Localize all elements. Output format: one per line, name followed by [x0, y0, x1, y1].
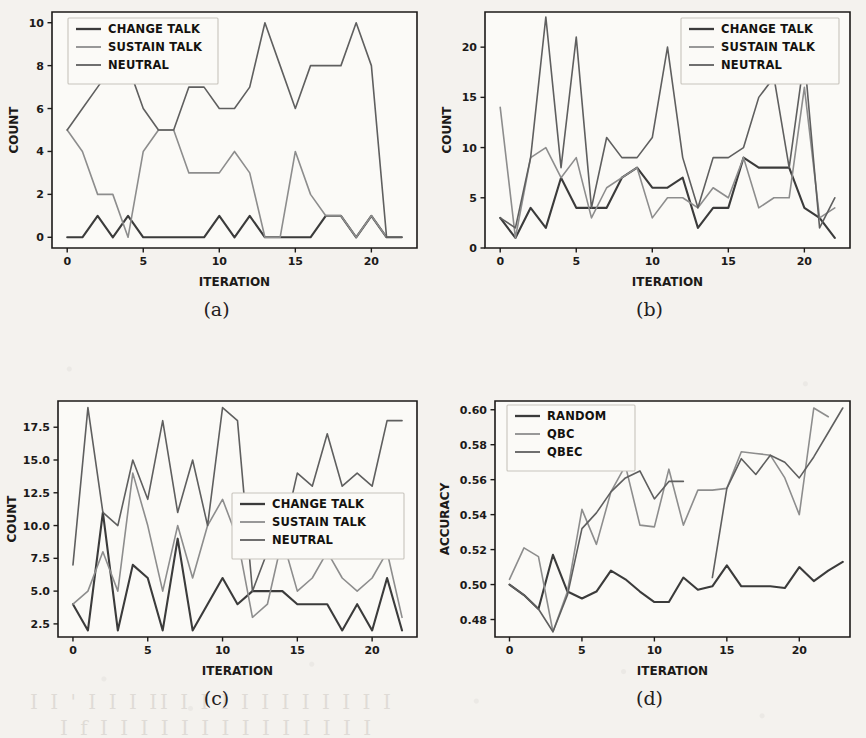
y-tick-label: 20: [462, 41, 478, 54]
x-tick-label: 15: [290, 644, 305, 657]
y-tick-label: 0.54: [460, 509, 487, 522]
panel-d-plot: 051015200.480.500.520.540.560.580.60ITER…: [433, 389, 866, 709]
legend-label-0: CHANGE TALK: [721, 22, 814, 36]
legend-label-2: NEUTRAL: [108, 58, 170, 72]
x-tick-label: 15: [719, 644, 734, 657]
y-tick-label: 6: [36, 103, 44, 116]
y-tick-label: 5: [469, 192, 477, 205]
x-tick-label: 10: [647, 644, 663, 657]
x-tick-label: 0: [69, 644, 77, 657]
panel-c-caption: (c): [0, 687, 433, 709]
panel-c: 051015202.55.07.510.012.515.017.5ITERATI…: [0, 369, 433, 738]
x-axis-label: ITERATION: [199, 275, 270, 289]
y-tick-label: 0.52: [460, 544, 487, 557]
x-tick-label: 10: [212, 255, 228, 268]
panel-a-caption: (a): [0, 298, 433, 320]
legend-label-1: SUSTAIN TALK: [272, 515, 367, 529]
x-tick-label: 10: [215, 644, 231, 657]
y-tick-label: 10: [29, 17, 45, 30]
figure-grid: 051015200246810ITERATIONCOUNTCHANGE TALK…: [0, 0, 866, 738]
x-tick-label: 5: [578, 644, 586, 657]
legend-label-1: QBC: [547, 427, 575, 441]
panel-a-plot: 051015200246810ITERATIONCOUNTCHANGE TALK…: [0, 0, 433, 320]
legend-label-2: NEUTRAL: [721, 58, 783, 72]
x-tick-label: 10: [645, 255, 661, 268]
x-tick-label: 15: [288, 255, 303, 268]
x-axis-label: ITERATION: [632, 275, 703, 289]
y-tick-label: 0.56: [460, 474, 487, 487]
x-axis-label: ITERATION: [637, 664, 708, 678]
y-tick-label: 4: [36, 145, 44, 158]
legend-label-0: CHANGE TALK: [272, 497, 365, 511]
x-tick-label: 20: [364, 644, 380, 657]
y-axis-label: COUNT: [5, 495, 19, 543]
y-tick-label: 15: [462, 91, 477, 104]
y-tick-label: 0.50: [460, 579, 487, 592]
panel-d-caption: (d): [433, 687, 866, 709]
x-tick-label: 20: [797, 255, 813, 268]
svg-a: 051015200246810ITERATIONCOUNTCHANGE TALK…: [0, 0, 433, 300]
svg-c: 051015202.55.07.510.012.515.017.5ITERATI…: [0, 389, 433, 689]
legend-label-0: CHANGE TALK: [108, 22, 201, 36]
y-tick-label: 0.58: [460, 439, 487, 452]
panel-b: 0510152005101520ITERATIONCOUNTCHANGE TAL…: [433, 0, 866, 369]
panel-c-plot: 051015202.55.07.510.012.515.017.5ITERATI…: [0, 389, 433, 709]
y-tick-label: 10: [462, 142, 478, 155]
x-tick-label: 0: [63, 255, 71, 268]
legend-label-2: QBEC: [547, 445, 583, 459]
x-tick-label: 5: [572, 255, 580, 268]
y-tick-label: 10.0: [23, 520, 50, 533]
y-tick-label: 0.48: [460, 614, 487, 627]
panel-b-plot: 0510152005101520ITERATIONCOUNTCHANGE TAL…: [433, 0, 866, 320]
y-tick-label: 17.5: [23, 421, 50, 434]
svg-b: 0510152005101520ITERATIONCOUNTCHANGE TAL…: [433, 0, 866, 300]
y-axis-label: COUNT: [7, 106, 21, 154]
y-axis-label: ACCURACY: [438, 482, 452, 555]
legend-label-1: SUSTAIN TALK: [108, 40, 203, 54]
x-tick-label: 20: [364, 255, 380, 268]
y-tick-label: 0: [36, 231, 44, 244]
y-axis-label: COUNT: [440, 106, 454, 154]
x-tick-label: 0: [506, 644, 514, 657]
y-tick-label: 2: [36, 188, 44, 201]
x-tick-label: 20: [792, 644, 808, 657]
y-tick-label: 0.60: [460, 404, 487, 417]
x-tick-label: 0: [496, 255, 504, 268]
x-axis-label: ITERATION: [202, 664, 273, 678]
y-tick-label: 12.5: [23, 487, 50, 500]
legend-label-2: NEUTRAL: [272, 533, 334, 547]
x-tick-label: 5: [144, 644, 152, 657]
y-tick-label: 2.5: [31, 618, 51, 631]
y-tick-label: 15.0: [23, 454, 50, 467]
x-tick-label: 15: [721, 255, 736, 268]
panel-b-caption: (b): [433, 298, 866, 320]
legend-label-0: RANDOM: [547, 409, 606, 423]
y-tick-label: 8: [36, 60, 44, 73]
legend-label-1: SUSTAIN TALK: [721, 40, 816, 54]
y-tick-label: 7.5: [31, 552, 51, 565]
y-tick-label: 0: [469, 242, 477, 255]
panel-a: 051015200246810ITERATIONCOUNTCHANGE TALK…: [0, 0, 433, 369]
svg-d: 051015200.480.500.520.540.560.580.60ITER…: [433, 389, 866, 689]
panel-d: 051015200.480.500.520.540.560.580.60ITER…: [433, 369, 866, 738]
x-tick-label: 5: [139, 255, 147, 268]
y-tick-label: 5.0: [31, 585, 51, 598]
